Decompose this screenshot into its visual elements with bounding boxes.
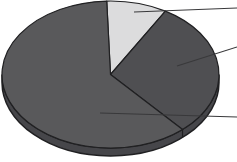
pie-chart-figure	[0, 0, 237, 162]
pie-chart	[0, 0, 237, 162]
